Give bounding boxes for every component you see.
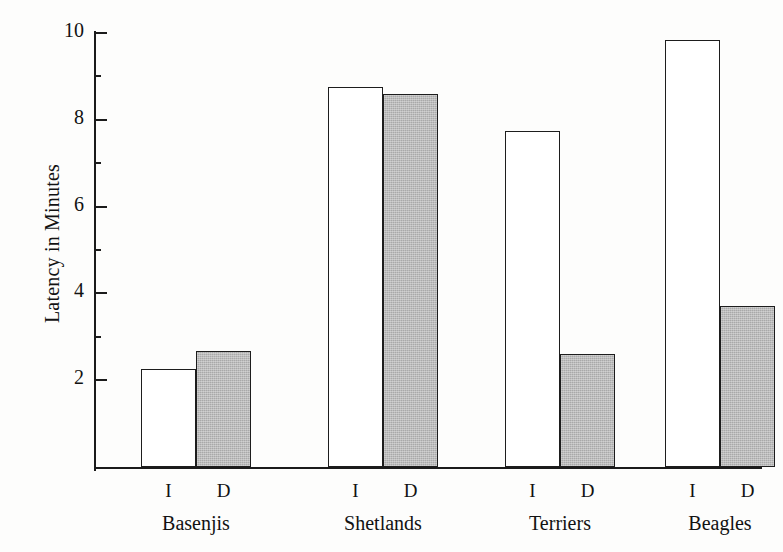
y-tick-major bbox=[94, 206, 107, 208]
bar-shetlands-i bbox=[328, 87, 383, 467]
bar-shetlands-d bbox=[383, 94, 438, 467]
bar-basenjis-d bbox=[196, 351, 251, 467]
y-tick-minor bbox=[94, 75, 101, 77]
bar-chart: Latency in Minutes 246810 IDBasenjisIDSh… bbox=[0, 0, 783, 552]
group-label-beagles: Beagles bbox=[630, 512, 783, 535]
condition-label-terriers-d: D bbox=[571, 480, 605, 502]
y-axis-title: Latency in Minutes bbox=[41, 114, 64, 374]
x-axis-line bbox=[94, 467, 762, 469]
bar-basenjis-i bbox=[141, 369, 196, 467]
bar-beagles-i bbox=[665, 40, 720, 467]
y-tick-major bbox=[94, 32, 107, 34]
bar-terriers-i bbox=[505, 131, 560, 467]
y-tick-major bbox=[94, 119, 107, 121]
y-axis-line bbox=[94, 31, 96, 471]
bar-terriers-d bbox=[560, 354, 615, 467]
y-tick-minor bbox=[94, 336, 101, 338]
condition-label-basenjis-d: D bbox=[207, 480, 241, 502]
y-tick-label: 2 bbox=[42, 366, 84, 389]
condition-label-basenjis-i: I bbox=[152, 480, 186, 502]
group-label-basenjis: Basenjis bbox=[106, 512, 286, 535]
y-tick-minor bbox=[94, 249, 101, 251]
condition-label-beagles-d: D bbox=[731, 480, 765, 502]
bar-beagles-d bbox=[720, 306, 775, 467]
condition-label-shetlands-d: D bbox=[394, 480, 428, 502]
condition-label-terriers-i: I bbox=[516, 480, 550, 502]
group-label-shetlands: Shetlands bbox=[293, 512, 473, 535]
y-tick-minor bbox=[94, 162, 101, 164]
y-tick-label: 6 bbox=[42, 193, 84, 216]
y-tick-label: 8 bbox=[42, 106, 84, 129]
condition-label-shetlands-i: I bbox=[339, 480, 373, 502]
y-tick-label: 10 bbox=[42, 19, 84, 42]
y-tick-label: 4 bbox=[42, 279, 84, 302]
group-label-terriers: Terriers bbox=[470, 512, 650, 535]
y-tick-major bbox=[94, 292, 107, 294]
y-tick-major bbox=[94, 379, 107, 381]
condition-label-beagles-i: I bbox=[676, 480, 710, 502]
